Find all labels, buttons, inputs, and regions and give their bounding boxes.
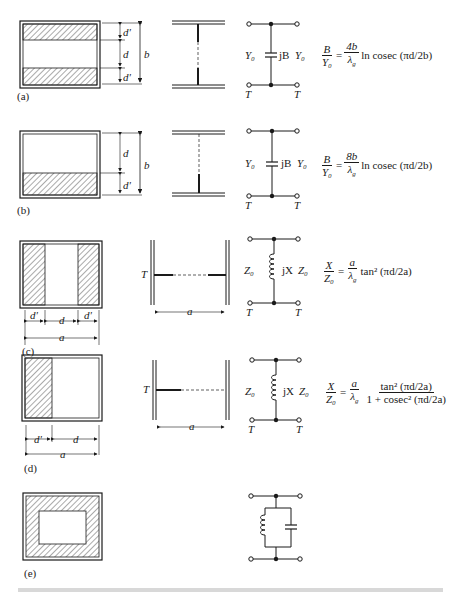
dim-d-prime: d' xyxy=(34,434,42,445)
terminal-T-left: T xyxy=(246,307,252,318)
dim-d: d xyxy=(123,148,129,159)
panel-label-a: (a) xyxy=(17,91,29,102)
circuit-a-left-admittance: Y₀ xyxy=(245,50,255,61)
circuit-d-reactance: jX xyxy=(283,386,294,397)
panel-b-side-view xyxy=(172,131,225,196)
circuit-a-right-admittance: Y₀ xyxy=(295,50,305,61)
panel-label-d: (d) xyxy=(24,463,37,474)
equation-b: BY₀ = 8bλg ln cosec (πd/2b) xyxy=(318,150,432,180)
figure-caption-illegible xyxy=(18,588,443,592)
terminal-T-right: T xyxy=(294,89,300,100)
panel-label-c: (c) xyxy=(22,346,34,357)
terminal-T-left: T xyxy=(245,89,251,100)
panel-c-side-view xyxy=(151,240,229,312)
panel-e-circuit xyxy=(249,494,302,561)
panel-e-cross-section xyxy=(23,493,102,560)
circuit-c-reactance: jX xyxy=(282,265,293,276)
circuit-c-left-impedance: Z₀ xyxy=(244,265,254,276)
diagram-canvas xyxy=(0,0,459,595)
side-view-width-a: a xyxy=(187,306,193,317)
circuit-b-susceptance: jB xyxy=(281,158,291,169)
terminal-T-left: T xyxy=(248,424,254,435)
dim-d: d xyxy=(73,434,79,445)
terminal-T-right: T xyxy=(295,307,301,318)
circuit-c-right-impedance: Z₀ xyxy=(298,265,308,276)
circuit-d-right-impedance: Z₀ xyxy=(299,386,309,397)
dim-d-prime-top: d' xyxy=(123,27,131,38)
circuit-b-left-admittance: Y₀ xyxy=(245,158,255,169)
side-view-terminal-T: T xyxy=(141,269,147,280)
dim-d-prime-right: d' xyxy=(84,310,92,321)
panel-label-e: (e) xyxy=(24,568,36,579)
dim-d-prime-left: d' xyxy=(30,310,38,321)
circuit-b-right-admittance: Y₀ xyxy=(297,158,307,169)
equation-a: BY₀ = 4bλg ln cosec (πd/2b) xyxy=(318,40,432,70)
panel-c-cross-section xyxy=(20,241,102,345)
dim-d: d xyxy=(59,315,65,326)
dim-d-prime-bottom: d' xyxy=(123,72,131,83)
terminal-T-right: T xyxy=(296,424,302,435)
panel-label-b: (b) xyxy=(17,205,30,216)
equation-c: XZ₀ = aλg tan² (πd/2a) xyxy=(320,256,412,286)
dim-d: d xyxy=(123,49,129,60)
dim-d-prime: d' xyxy=(123,180,131,191)
terminal-T-right: T xyxy=(294,200,300,211)
side-view-width-a: a xyxy=(189,421,195,432)
panel-a-side-view xyxy=(172,21,225,88)
equation-d: XZ₀ = aλg tan² (πd/2a)1 + cosec² (πd/2a) xyxy=(322,377,450,407)
panel-d-side-view xyxy=(153,360,229,427)
circuit-a-susceptance: jB xyxy=(279,50,289,61)
side-view-terminal-T: T xyxy=(143,384,149,395)
dim-b: b xyxy=(144,160,150,171)
dim-b: b xyxy=(144,49,150,60)
dim-a: a xyxy=(60,449,66,460)
circuit-d-left-impedance: Z₀ xyxy=(245,386,255,397)
terminal-T-left: T xyxy=(245,200,251,211)
dim-a: a xyxy=(59,332,65,343)
